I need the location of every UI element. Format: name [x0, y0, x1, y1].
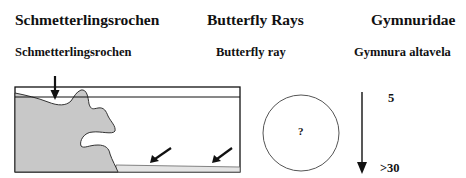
- depth-arrow-icon: [357, 92, 367, 174]
- depth-max-label: >30: [380, 161, 400, 176]
- size-unknown-label: ?: [298, 125, 304, 137]
- habitat-diagram: [0, 0, 466, 178]
- depth-min-label: 5: [388, 91, 394, 106]
